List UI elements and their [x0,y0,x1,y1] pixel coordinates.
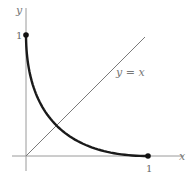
x-axis-label: x [179,150,186,163]
point-0-1-marker [23,32,29,38]
diagram-figure: y x 1 1 y = x [0,0,196,179]
identity-line-label: y = x [115,66,145,79]
x-tick-label: 1 [146,163,152,174]
y-tick-label: 1 [16,30,22,41]
identity-line [26,37,145,156]
point-1-0-marker [145,153,151,159]
y-axis-label: y [15,4,23,17]
